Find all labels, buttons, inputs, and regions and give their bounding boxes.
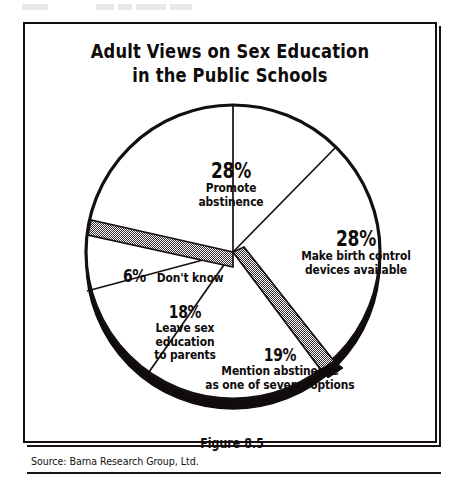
pie-chart: 28% Promote abstinence 28% Make birth co…	[25, 24, 439, 445]
frame-edge-right	[439, 26, 441, 447]
slice-desc-leave-to-parents-line-1: Leave sex	[132, 321, 238, 335]
slice-desc-dont-know: Don't know	[157, 271, 224, 285]
source-note: Source: Barna Research Group, Ltd.	[31, 455, 199, 468]
slice-value-promote-abstinence: 28%	[173, 160, 290, 181]
slice-value-dont-know: 6%	[123, 267, 146, 285]
slice-desc-leave-to-parents-line-2: education	[132, 335, 238, 349]
figure-caption: Figure 8.5	[46, 435, 419, 451]
slice-label-dont-know: 6% Don't know	[121, 267, 225, 285]
slice-desc-mention-abstinence-line-1: Mention abstinence	[187, 364, 373, 378]
figure-frame: Adult Views on Sex Education in the Publ…	[23, 22, 437, 443]
slice-label-promote-abstinence: 28% Promote abstinence	[163, 160, 299, 208]
slice-desc-promote-abstinence-line-1: Promote	[166, 181, 295, 195]
source-rule	[27, 472, 441, 474]
slice-desc-mention-abstinence-line-2: as one of several options	[187, 378, 373, 392]
slice-label-birth-control: 28% Make birth control devices available	[276, 228, 436, 276]
scan-artifact-running-head	[22, 4, 242, 11]
slice-value-leave-to-parents: 18%	[137, 303, 233, 321]
slice-value-birth-control: 28%	[287, 228, 425, 249]
slice-desc-birth-control-line-2: devices available	[280, 263, 432, 277]
slice-desc-promote-abstinence-line-2: abstinence	[166, 195, 295, 209]
slice-label-leave-to-parents: 18% Leave sex education to parents	[129, 303, 241, 362]
slice-desc-leave-to-parents-line-3: to parents	[132, 348, 238, 362]
slice-desc-birth-control-line-1: Make birth control	[280, 249, 432, 263]
